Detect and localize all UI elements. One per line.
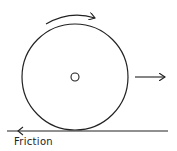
diagram-canvas bbox=[0, 0, 177, 151]
axle bbox=[71, 73, 79, 81]
rotation-arrow-icon bbox=[46, 15, 95, 24]
wheel bbox=[22, 24, 128, 130]
friction-label: Friction bbox=[14, 136, 53, 147]
